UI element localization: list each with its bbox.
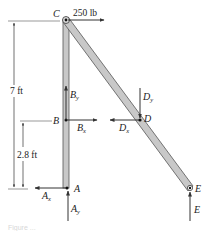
dimension-2-8ft: 2.8 ft — [17, 121, 52, 187]
label-A: A — [73, 183, 81, 194]
applied-load-arrow: 250 lb — [68, 8, 104, 20]
label-D: D — [143, 113, 152, 124]
figure-caption: Figure ... — [8, 224, 36, 231]
label-C: C — [53, 8, 60, 19]
member-CE — [63, 17, 193, 191]
svg-text:By: By — [70, 89, 79, 101]
force-Ay: Ay — [68, 191, 80, 221]
pin-E — [187, 185, 192, 190]
svg-text:Ax: Ax — [41, 190, 51, 202]
force-Dx: Dx — [110, 120, 139, 134]
force-Bx: Bx — [67, 120, 97, 134]
applied-load-label: 250 lb — [73, 8, 97, 18]
dimension-7ft: 7 ft — [8, 21, 60, 189]
dimension-7ft-label: 7 ft — [10, 86, 23, 96]
dimension-2-8ft-label: 2.8 ft — [17, 150, 37, 160]
svg-text:Bx: Bx — [77, 122, 86, 134]
label-B: B — [53, 115, 59, 126]
force-E: E — [190, 192, 200, 221]
force-Ax: Ax — [35, 188, 66, 202]
svg-text:Dy: Dy — [142, 91, 153, 103]
svg-text:Dx: Dx — [118, 122, 129, 134]
frame-diagram: C B D A E 250 lb By Bx Dx Dy Ax Ay E — [0, 0, 204, 231]
svg-text:E: E — [193, 204, 200, 215]
label-E: E — [194, 183, 201, 194]
svg-text:Ay: Ay — [70, 203, 80, 215]
